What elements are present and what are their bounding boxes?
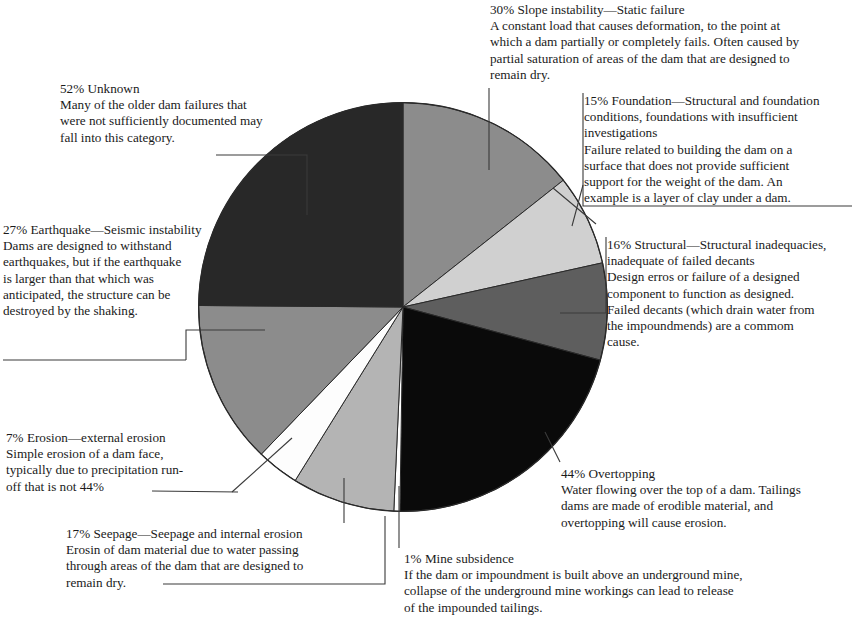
callout-erosion: 7% Erosion—external erosion Simple erosi… <box>6 430 258 495</box>
callout-slope-instability: 30% Slope instability—Static failure A c… <box>490 2 842 83</box>
callout-structural-body: Design erros or failure of a designed co… <box>607 269 854 350</box>
callout-foundation-heading: 15% Foundation—Structural and foundation… <box>584 93 852 142</box>
callout-earthquake-body: Dams are designed to withstand earthquak… <box>3 238 229 319</box>
callout-overtopping-heading: 44% Overtopping <box>561 466 851 482</box>
callout-mine-body: If the dam or impoundment is built above… <box>404 567 848 616</box>
callout-foundation: 15% Foundation—Structural and foundation… <box>584 93 852 206</box>
callout-earthquake-heading: 27% Earthquake—Seismic instability <box>3 222 229 238</box>
callout-mine-subsidence: 1% Mine subsidence If the dam or impound… <box>404 551 848 616</box>
callout-slope-body: A constant load that causes deformation,… <box>490 18 842 83</box>
pie-chart-svg <box>198 102 608 512</box>
callout-erosion-heading: 7% Erosion—external erosion <box>6 430 258 446</box>
callout-structural-heading: 16% Structural—Structural inadequacies, … <box>607 237 854 269</box>
callout-unknown-body: Many of the older dam failures that were… <box>60 97 312 146</box>
callout-seepage-heading: 17% Seepage—Seepage and internal erosion <box>66 526 384 542</box>
callout-overtopping-body: Water flowing over the top of a dam. Tai… <box>561 482 851 531</box>
callout-structural: 16% Structural—Structural inadequacies, … <box>607 237 854 350</box>
callout-overtopping: 44% Overtopping Water flowing over the t… <box>561 466 851 531</box>
chart-canvas: 30% Slope instability—Static failure A c… <box>0 0 854 619</box>
callout-mine-heading: 1% Mine subsidence <box>404 551 848 567</box>
callout-foundation-body: Failure related to building the dam on a… <box>584 142 852 207</box>
callout-earthquake: 27% Earthquake—Seismic instability Dams … <box>3 222 229 319</box>
pie-chart <box>198 102 608 512</box>
pie-slice-group <box>199 103 608 512</box>
callout-slope-heading: 30% Slope instability—Static failure <box>490 2 842 18</box>
callout-unknown: 52% Unknown Many of the older dam failur… <box>60 81 312 146</box>
callout-seepage-body: Erosin of dam material due to water pass… <box>66 542 384 591</box>
callout-unknown-heading: 52% Unknown <box>60 81 312 97</box>
callout-seepage: 17% Seepage—Seepage and internal erosion… <box>66 526 384 591</box>
callout-erosion-body: Simple erosion of a dam face, typically … <box>6 446 258 495</box>
